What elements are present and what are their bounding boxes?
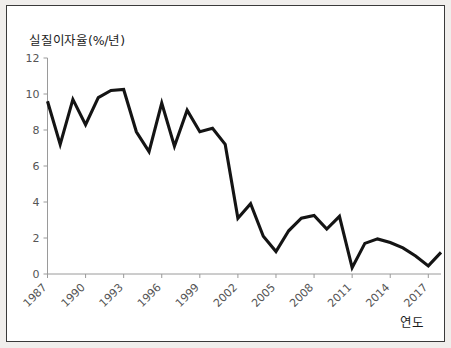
x-tick-label: 1996	[135, 281, 164, 310]
y-tick-label: 2	[33, 232, 40, 245]
x-tick-label: 2011	[325, 281, 354, 310]
x-axis: 1987199019931996199920022005200820112014…	[21, 274, 441, 310]
x-tick-label: 1993	[97, 281, 126, 310]
series-polyline	[48, 90, 442, 268]
y-tick-label: 6	[33, 160, 40, 173]
data-series-group	[48, 90, 442, 268]
x-tick-label: 1990	[59, 281, 88, 310]
chart-frame: 실질이자율(%/년) 024681012 1987199019931996199…	[6, 5, 445, 342]
y-tick-label: 4	[33, 196, 40, 209]
x-tick-label: 1999	[173, 281, 202, 310]
y-tick-label: 10	[26, 88, 40, 101]
x-tick-label: 2017	[401, 281, 430, 310]
y-tick-label: 0	[33, 268, 40, 281]
x-tick-label: 2005	[249, 281, 278, 310]
line-chart-svg: 024681012 198719901993199619992002200520…	[7, 6, 446, 343]
y-tick-label: 12	[26, 52, 40, 65]
y-axis: 024681012	[26, 52, 48, 281]
x-axis-title: 연도	[400, 312, 424, 331]
x-tick-label: 2002	[211, 281, 240, 310]
x-tick-label: 2014	[363, 281, 392, 310]
y-tick-label: 8	[33, 124, 40, 137]
x-tick-label: 1987	[21, 281, 50, 310]
plot-wrapper: 실질이자율(%/년) 024681012 1987199019931996199…	[7, 6, 446, 343]
chart-figure: 실질이자율(%/년) 024681012 1987199019931996199…	[0, 0, 451, 348]
x-tick-label: 2008	[287, 281, 316, 310]
